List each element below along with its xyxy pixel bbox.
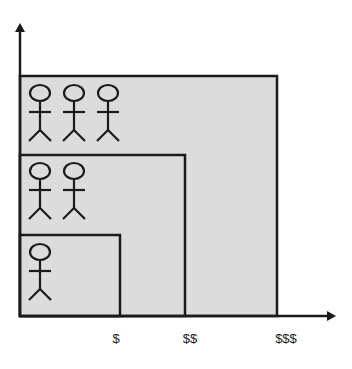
- x-label-3: $$$: [275, 331, 297, 346]
- x-label-2: $$: [183, 331, 198, 346]
- nested-cost-diagram: $ $$ $$$: [0, 0, 352, 369]
- x-label-1: $: [112, 331, 120, 346]
- tier-rect-1: [20, 235, 120, 316]
